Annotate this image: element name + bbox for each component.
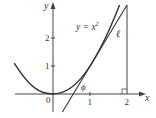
parabola-tangent-diagram: y x 0 1 2 1 2 y = x2 ℓ ϕ bbox=[0, 0, 156, 118]
curve-label: y = x2 bbox=[75, 21, 99, 32]
x-tick-label-2: 2 bbox=[125, 97, 130, 107]
x-tick-label-0: 0 bbox=[46, 95, 51, 105]
tangent-label: ℓ bbox=[116, 28, 120, 39]
y-tick-label-2: 2 bbox=[45, 33, 50, 43]
y-axis-label: y bbox=[43, 0, 49, 11]
x-axis bbox=[15, 92, 146, 97]
y-axis bbox=[51, 2, 56, 112]
x-tick-label-1: 1 bbox=[88, 97, 93, 107]
parabola-curve bbox=[14, 5, 119, 94]
y-tick-label-1: 1 bbox=[45, 61, 50, 71]
right-angle-marker bbox=[122, 89, 127, 94]
x-axis-label: x bbox=[144, 92, 150, 103]
y-axis-arrow-icon bbox=[51, 2, 56, 9]
angle-label: ϕ bbox=[81, 82, 86, 92]
